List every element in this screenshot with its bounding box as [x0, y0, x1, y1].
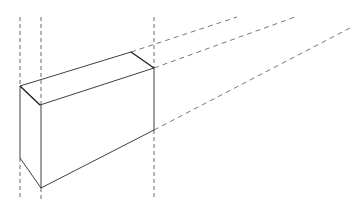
box-edge-bottom-left: [20, 158, 41, 188]
box-edge-top-right: [131, 52, 154, 68]
box-edge-top-left: [20, 86, 40, 105]
extension-line-top-back: [131, 17, 237, 52]
box-edge-top-front: [40, 68, 154, 105]
box-edge-bottom-front: [41, 130, 154, 188]
perspective-box-diagram: [0, 0, 364, 210]
extension-line-top-front: [154, 17, 295, 68]
extension-line-bottom: [154, 28, 350, 130]
